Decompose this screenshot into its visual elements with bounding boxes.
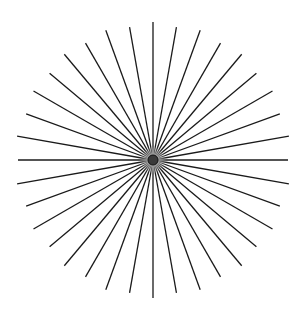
center-dot — [148, 155, 158, 165]
starburst-canvas — [0, 0, 306, 317]
